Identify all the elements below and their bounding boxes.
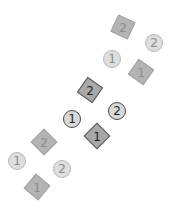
marker-label: 2 [86,84,94,96]
marker-label: 1 [137,66,145,78]
marker-label: 1 [33,181,41,193]
square-marker-2[interactable]: 2 [35,133,54,152]
circle-marker-1[interactable]: 1 [103,50,121,68]
marker-label: 2 [58,163,66,175]
square-marker-1[interactable]: 1 [132,63,151,82]
square-marker-1[interactable]: 1 [28,178,47,197]
circle-marker-1[interactable]: 1 [8,152,26,170]
marker-label: 1 [93,130,101,142]
circle-marker-2[interactable]: 2 [145,34,163,52]
marker-label: 1 [68,113,76,125]
circle-marker-2[interactable]: 2 [53,160,71,178]
square-marker-2[interactable]: 2 [81,81,100,100]
square-marker-1[interactable]: 1 [88,127,107,146]
marker-label: 2 [113,105,121,117]
diagram-canvas: 2 2 1 1 2 2 1 1 2 [0,0,179,216]
marker-label: 1 [13,155,21,167]
circle-marker-1[interactable]: 1 [63,110,81,128]
marker-label: 2 [40,136,48,148]
marker-label: 2 [150,37,158,49]
circle-marker-2[interactable]: 2 [108,102,126,120]
marker-label: 2 [119,21,127,33]
marker-label: 1 [108,53,116,65]
square-marker-2[interactable]: 2 [114,18,133,37]
